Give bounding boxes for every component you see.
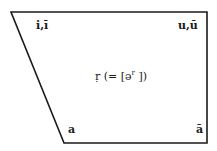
label-high-front-vowels: i,ī [36,20,48,31]
syllabic-r-open: (= [ə [104,70,132,83]
label-low-back-vowel: ā [196,124,203,135]
label-low-front-vowel: a [68,124,75,135]
syllabic-r-symbol: ṛ [95,70,100,83]
syllabic-r-close: ]) [135,70,147,83]
label-syllabic-r: ṛ (= [ər ]) [95,70,147,82]
label-high-back-vowels: u,ū [178,20,198,31]
